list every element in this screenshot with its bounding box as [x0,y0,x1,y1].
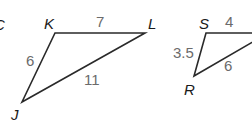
side-label-kl: 7 [96,13,104,30]
triangle-rst-shape [194,33,252,76]
side-label-jl: 11 [84,71,100,88]
vertex-label-k: K [44,15,55,32]
partial-vertex-label: C [0,16,5,33]
side-label-rt: 6 [224,57,232,74]
vertex-label-s: S [199,15,209,32]
triangles-diagram: C K L J 7 6 11 S R 4 3.5 6 [0,0,252,128]
triangle-rst: S R 4 3.5 6 [173,13,252,98]
side-label-rs: 3.5 [173,44,194,61]
vertex-label-j: J [10,106,19,123]
triangle-jkl: K L J 7 6 11 [10,13,156,123]
side-label-jk: 6 [26,52,34,69]
triangle-jkl-shape [22,33,145,102]
vertex-label-r: R [184,81,195,98]
side-label-st: 4 [225,13,233,30]
vertex-label-l: L [148,15,156,32]
